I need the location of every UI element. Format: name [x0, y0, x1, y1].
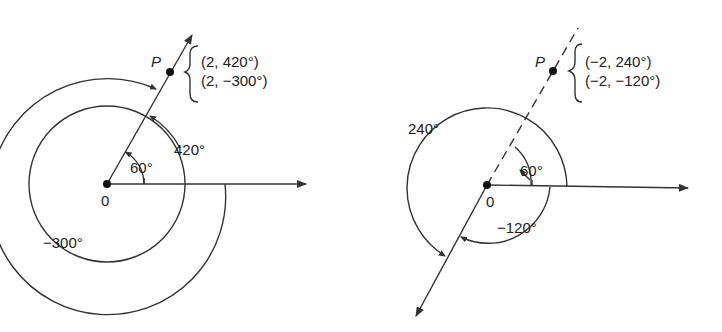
- right-figure: P (−2, 240°) (−2, −120°) 60° 240° −120° …: [407, 28, 688, 316]
- angle-label-60-right: 60°: [520, 162, 543, 179]
- origin-label-right: 0: [486, 193, 494, 210]
- angle-label-420-left: 420°: [174, 141, 205, 158]
- point-label-left: P: [151, 53, 161, 70]
- angle-arc-neg300-left: [0, 79, 226, 315]
- brace-right: [569, 44, 582, 102]
- angle-label-60-left: 60°: [130, 159, 153, 176]
- angle-label-neg300-left: −300°: [43, 234, 83, 251]
- point-label-right: P: [535, 53, 545, 70]
- left-figure: P (2, 420°) (2, −300°) 60° 420° −300° 0: [0, 35, 306, 315]
- polar-axis-right: [487, 185, 688, 188]
- brace-left: [185, 46, 198, 102]
- origin-dot-right: [483, 181, 491, 189]
- coordinate-2-right: (−2, −120°): [585, 72, 660, 89]
- polar-coordinates-diagram: P (2, 420°) (2, −300°) 60° 420° −300° 0 …: [0, 0, 722, 332]
- point-p-right: [549, 67, 557, 75]
- coordinate-1-left: (2, 420°): [201, 53, 259, 70]
- terminal-ray-right: [416, 185, 487, 316]
- angle-label-neg120-right: −120°: [497, 219, 537, 236]
- point-p-left: [166, 68, 174, 76]
- origin-dot-left: [103, 180, 111, 188]
- angle-label-240-right: 240°: [408, 120, 439, 137]
- origin-label-left: 0: [101, 192, 109, 209]
- coordinate-1-right: (−2, 240°): [585, 53, 651, 70]
- coordinate-2-left: (2, −300°): [201, 72, 267, 89]
